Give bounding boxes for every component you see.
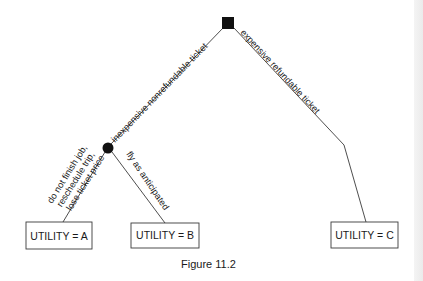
label-do-not-finish-group: do not finish job, reschedule trip, lose… — [45, 143, 106, 216]
decision-tree-canvas: inexpensive nonrefundable ticket expensi… — [0, 0, 423, 281]
outcome-label-b: UTILITY = B — [136, 229, 194, 241]
outcome-label-a: UTILITY = A — [30, 230, 87, 242]
label-inexpensive-nonrefundable: inexpensive nonrefundable ticket — [109, 41, 209, 145]
outcome-label-c: UTILITY = C — [335, 229, 394, 241]
figure-caption: Figure 11.2 — [181, 258, 236, 270]
decision-node-square — [222, 17, 234, 29]
page-edge-shadow — [414, 0, 423, 281]
chance-node-circle — [103, 143, 114, 154]
label-expensive-refundable: expensive refundable ticket — [239, 28, 323, 117]
decision-tree-figure: inexpensive nonrefundable ticket expensi… — [0, 0, 423, 281]
label-fly-as-anticipated: fly as anticipated — [124, 150, 171, 212]
edge-expensive — [234, 28, 366, 222]
